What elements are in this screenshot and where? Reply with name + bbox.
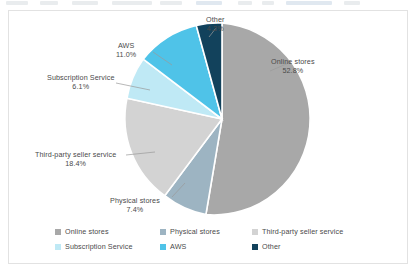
- legend-item-online-stores[interactable]: Online stores: [55, 227, 160, 236]
- callout-name-third-party-seller-service: Third-party seller service: [35, 150, 116, 159]
- legend-item-other[interactable]: Other: [252, 242, 343, 251]
- legend-swatch-third-party-seller-service: [252, 229, 258, 235]
- callout-name-subscription-service: Subscription Service: [47, 73, 115, 82]
- callout-name-physical-stores: Physical stores: [110, 196, 160, 205]
- callout-pct-third-party-seller-service: 18.4%: [35, 159, 116, 168]
- legend-swatch-online-stores: [55, 229, 61, 235]
- legend-swatch-physical-stores: [160, 229, 166, 235]
- legend-label-subscription-service: Subscription Service: [65, 242, 133, 251]
- legend-item-aws[interactable]: AWS: [160, 242, 252, 251]
- legend-label-online-stores: Online stores: [65, 227, 109, 236]
- pie-chart-plot-area: Other 4.3% Online stores 52.8% AWS 11.0%…: [9, 11, 409, 221]
- callout-pct-subscription-service: 6.1%: [47, 82, 115, 91]
- screenshot-root: Other 4.3% Online stores 52.8% AWS 11.0%…: [0, 0, 416, 270]
- legend-item-subscription-service[interactable]: Subscription Service: [55, 242, 160, 251]
- legend-swatch-other: [252, 244, 258, 250]
- chart-card: Other 4.3% Online stores 52.8% AWS 11.0%…: [8, 10, 408, 264]
- legend-grid: Online stores Physical stores Third-part…: [55, 227, 343, 251]
- callout-label-third-party-seller-service: Third-party seller service 18.4%: [35, 150, 116, 168]
- callout-name-online-stores: Online stores: [271, 57, 315, 66]
- callout-name-aws: AWS: [118, 41, 134, 50]
- callout-label-subscription-service: Subscription Service 6.1%: [47, 73, 115, 91]
- callout-pct-physical-stores: 7.4%: [110, 205, 160, 214]
- chart-legend: Online stores Physical stores Third-part…: [9, 225, 409, 263]
- callout-name-other: Other: [206, 15, 224, 24]
- pie-chart-svg: [9, 11, 409, 221]
- callout-pct-online-stores: 52.8%: [271, 66, 315, 75]
- legend-label-other: Other: [262, 242, 280, 251]
- legend-item-physical-stores[interactable]: Physical stores: [160, 227, 252, 236]
- legend-swatch-aws: [160, 244, 166, 250]
- pie-slices: [125, 23, 310, 215]
- legend-swatch-subscription-service: [55, 244, 61, 250]
- callout-pct-other: 4.3%: [206, 24, 224, 33]
- callout-label-aws: AWS 11.0%: [116, 41, 136, 59]
- legend-label-aws: AWS: [170, 242, 186, 251]
- legend-label-physical-stores: Physical stores: [170, 227, 220, 236]
- callout-label-online-stores: Online stores 52.8%: [271, 57, 315, 75]
- callout-pct-aws: 11.0%: [116, 50, 136, 59]
- callout-label-other: Other 4.3%: [206, 15, 224, 33]
- legend-label-third-party-seller-service: Third-party seller service: [262, 227, 343, 236]
- legend-item-third-party-seller-service[interactable]: Third-party seller service: [252, 227, 343, 236]
- callout-label-physical-stores: Physical stores 7.4%: [110, 196, 160, 214]
- cut-off-toolbar-strip: [0, 0, 416, 8]
- pie-chart: [9, 11, 409, 221]
